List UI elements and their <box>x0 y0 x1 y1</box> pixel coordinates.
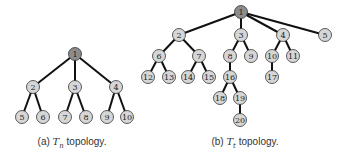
node-label-20: 20 <box>235 116 245 125</box>
tree-a: 12345678910 <box>16 48 134 124</box>
node-label-4: 4 <box>280 31 285 40</box>
node-label-19: 19 <box>235 94 245 103</box>
caption-b: (b) Tt topology. <box>211 136 278 150</box>
caption-a-suffix: topology. <box>64 136 107 147</box>
edge-1-2 <box>33 54 75 87</box>
node-label-18: 18 <box>215 94 225 103</box>
caption-a: (a) Tn topology. <box>38 136 107 150</box>
node-label-3: 3 <box>72 83 77 92</box>
node-label-2: 2 <box>30 83 35 92</box>
node-label-16: 16 <box>225 73 235 82</box>
node-label-1: 1 <box>238 8 243 17</box>
node-label-3: 3 <box>238 31 243 40</box>
edge-1-2 <box>179 12 241 35</box>
caption-b-suffix: topology. <box>236 136 279 147</box>
node-label-12: 12 <box>143 73 153 82</box>
node-label-10: 10 <box>122 113 132 122</box>
node-label-5: 5 <box>19 113 24 122</box>
node-label-14: 14 <box>183 73 193 82</box>
caption-b-prefix: (b) <box>211 136 226 147</box>
node-label-9: 9 <box>248 52 253 61</box>
caption-a-prefix: (a) <box>38 136 53 147</box>
node-label-9: 9 <box>104 113 109 122</box>
node-label-17: 17 <box>267 73 277 82</box>
edge-1-4 <box>75 54 116 87</box>
node-label-7: 7 <box>196 52 201 61</box>
node-label-8: 8 <box>83 113 88 122</box>
tree-b: 1234567891011121314151617181920 <box>142 6 332 127</box>
node-label-7: 7 <box>62 113 67 122</box>
node-label-6: 6 <box>40 113 45 122</box>
caption-b-math: T <box>226 136 233 147</box>
node-label-11: 11 <box>288 52 298 61</box>
node-label-15: 15 <box>204 73 214 82</box>
node-label-2: 2 <box>176 31 181 40</box>
edge-1-4 <box>241 12 283 35</box>
node-label-6: 6 <box>156 52 161 61</box>
node-label-5: 5 <box>322 31 327 40</box>
node-label-1: 1 <box>72 50 77 59</box>
node-label-8: 8 <box>227 52 232 61</box>
caption-a-math: T <box>53 136 60 147</box>
node-label-13: 13 <box>164 73 174 82</box>
node-label-10: 10 <box>267 52 277 61</box>
node-label-4: 4 <box>113 83 118 92</box>
